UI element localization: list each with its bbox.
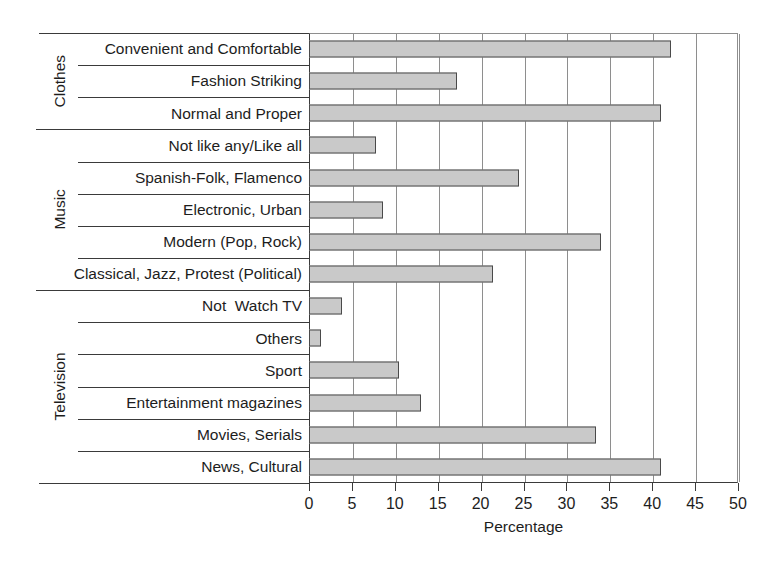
x-tick-label: 0 (305, 495, 314, 513)
x-tick-label: 10 (386, 495, 404, 513)
gridline (739, 34, 740, 482)
bar-row (309, 258, 738, 290)
bar-row (309, 387, 738, 419)
category-label: Others (255, 331, 309, 347)
bar (309, 330, 321, 347)
category-label: Sport (265, 363, 309, 379)
bar-row (309, 33, 738, 65)
bar-chart-figure: Convenient and ComfortableFashion Striki… (0, 0, 776, 569)
bar (309, 266, 493, 283)
x-tick (481, 483, 482, 491)
x-axis: 05101520253035404550 (309, 483, 738, 484)
bar-row (309, 290, 738, 322)
x-tick (309, 483, 310, 491)
x-tick (524, 483, 525, 491)
x-tick (738, 483, 739, 491)
bar-row (309, 226, 738, 258)
x-tick (438, 483, 439, 491)
category-label: Convenient and Comfortable (105, 41, 309, 57)
x-tick-label: 45 (686, 495, 704, 513)
bar-row (309, 194, 738, 226)
group-label-clothes: Clothes (0, 33, 120, 129)
x-tick-label: 20 (472, 495, 490, 513)
x-tick-label: 15 (429, 495, 447, 513)
bar (309, 362, 399, 379)
bar (309, 41, 671, 58)
bar-row (309, 354, 738, 386)
category-label: Normal and Proper (171, 106, 309, 122)
bar-row (309, 322, 738, 354)
category-label: Fashion Striking (191, 73, 309, 89)
bar-row (309, 451, 738, 483)
x-tick (609, 483, 610, 491)
group-label-music: Music (0, 129, 120, 290)
x-tick-label: 25 (515, 495, 533, 513)
x-axis-title: Percentage (309, 518, 738, 536)
x-tick (695, 483, 696, 491)
bar (309, 298, 342, 315)
bar-row (309, 419, 738, 451)
bar (309, 137, 376, 154)
bar (309, 169, 519, 186)
category-label: Movies, Serials (197, 427, 309, 443)
bar-row (309, 65, 738, 97)
x-tick-label: 5 (347, 495, 356, 513)
x-tick (352, 483, 353, 491)
category-label: Modern (Pop, Rock) (163, 234, 309, 250)
bar-row (309, 97, 738, 129)
group-label-text: Music (0, 190, 140, 230)
bar (309, 105, 661, 122)
category-label: Not Watch TV (202, 298, 309, 314)
x-tick-label: 40 (643, 495, 661, 513)
x-tick-label: 30 (557, 495, 575, 513)
x-tick (566, 483, 567, 491)
x-tick-label: 50 (729, 495, 747, 513)
bar-row (309, 162, 738, 194)
bars-layer (309, 33, 738, 483)
group-label-television: Television (0, 290, 120, 483)
group-label-text: Clothes (12, 55, 108, 108)
category-label: News, Cultural (201, 459, 309, 475)
bar (309, 201, 383, 218)
bar (309, 73, 457, 90)
category-label: Spanish-Folk, Flamenco (135, 170, 309, 186)
group-label-text: Television (0, 353, 156, 421)
bar-row (309, 129, 738, 161)
x-tick (652, 483, 653, 491)
category-separator (39, 483, 309, 484)
bar (309, 426, 596, 443)
bar (309, 233, 601, 250)
bar (309, 458, 661, 475)
x-tick-label: 35 (600, 495, 618, 513)
x-tick (395, 483, 396, 491)
bar (309, 394, 421, 411)
category-label: Electronic, Urban (183, 202, 309, 218)
category-label: Not like any/Like all (168, 138, 309, 154)
